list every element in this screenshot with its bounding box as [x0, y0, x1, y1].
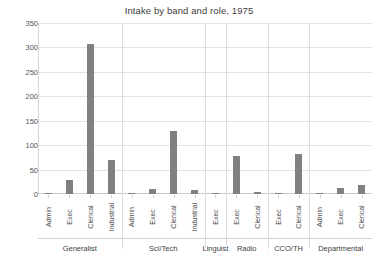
- x-tick-mark: [111, 195, 112, 198]
- x-tick-mark: [69, 195, 70, 198]
- plot-area: [38, 23, 372, 194]
- role-label-slot: Industrial: [184, 195, 205, 239]
- bar-slot[interactable]: [351, 23, 372, 194]
- band-label: Linguist: [205, 239, 226, 257]
- role-label-group: ExecClerical: [268, 195, 310, 239]
- bar-group: [38, 23, 122, 194]
- y-tick-label: 300: [4, 43, 38, 52]
- bar[interactable]: [128, 193, 135, 194]
- role-label-slot: Exec: [205, 195, 226, 239]
- bar[interactable]: [191, 190, 198, 194]
- bar[interactable]: [337, 188, 344, 194]
- band-label: Sci/Tech: [122, 239, 206, 257]
- y-tick-label: 200: [4, 92, 38, 101]
- chart-title: Intake by band and role, 1975: [0, 5, 378, 16]
- bar[interactable]: [149, 189, 156, 194]
- x-tick-mark: [320, 195, 321, 198]
- y-tick-label: 50: [4, 165, 38, 174]
- bar-group: [122, 23, 206, 194]
- role-label: Admin: [44, 207, 51, 227]
- role-label-slot: Exec: [142, 195, 163, 239]
- bar-slot[interactable]: [80, 23, 101, 194]
- x-tick-mark: [257, 195, 258, 198]
- bar-slot[interactable]: [247, 23, 268, 194]
- bar-slot[interactable]: [101, 23, 122, 194]
- band-axis-labels: GeneralistSci/TechLinguistRadioCCO/THDep…: [38, 239, 372, 257]
- bar-series: [38, 23, 372, 194]
- band-label: Radio: [226, 239, 268, 257]
- bar-slot[interactable]: [184, 23, 205, 194]
- role-label-group: AdminExecClericalIndustrial: [38, 195, 122, 239]
- x-tick-mark: [341, 195, 342, 198]
- y-tick-label: 350: [4, 19, 38, 28]
- x-tick-mark: [236, 195, 237, 198]
- bar[interactable]: [275, 193, 282, 194]
- bar-slot[interactable]: [330, 23, 351, 194]
- role-label-slot: Exec: [226, 195, 247, 239]
- role-label-slot: Exec: [59, 195, 80, 239]
- x-tick-mark: [362, 195, 363, 198]
- bar-slot[interactable]: [163, 23, 184, 194]
- y-tick-label: 100: [4, 141, 38, 150]
- x-tick-mark: [215, 195, 216, 198]
- bar-slot[interactable]: [289, 23, 310, 194]
- x-tick-mark: [174, 195, 175, 198]
- role-label-slot: Admin: [122, 195, 143, 239]
- role-label-group: ExecClerical: [226, 195, 268, 239]
- bar-group: [226, 23, 268, 194]
- bar[interactable]: [233, 156, 240, 194]
- bar-slot[interactable]: [226, 23, 247, 194]
- band-label: Generalist: [38, 239, 122, 257]
- bar-group: [268, 23, 310, 194]
- role-label-slot: Clerical: [247, 195, 268, 239]
- bar-slot[interactable]: [142, 23, 163, 194]
- bar-group: [309, 23, 372, 194]
- bar[interactable]: [87, 44, 94, 194]
- bar-slot[interactable]: [59, 23, 80, 194]
- role-label-slot: Admin: [309, 195, 330, 239]
- role-label-slot: Clerical: [80, 195, 101, 239]
- y-tick-label: 0: [4, 190, 38, 199]
- bar[interactable]: [316, 193, 323, 194]
- role-label-group: AdminExecClericalIndustrial: [122, 195, 206, 239]
- role-label: Industrial: [191, 203, 198, 231]
- role-label-slot: Clerical: [351, 195, 372, 239]
- bar-group: [205, 23, 226, 194]
- bar[interactable]: [45, 193, 52, 194]
- bar[interactable]: [212, 193, 219, 194]
- bar[interactable]: [170, 131, 177, 195]
- role-label: Exec: [337, 209, 344, 225]
- x-tick-mark: [48, 195, 49, 198]
- role-label-slot: Industrial: [101, 195, 122, 239]
- bar-slot[interactable]: [38, 23, 59, 194]
- role-axis-labels: AdminExecClericalIndustrialAdminExecCler…: [38, 195, 372, 239]
- band-label: CCO/TH: [268, 239, 310, 257]
- role-label: Clerical: [86, 205, 93, 228]
- role-label: Exec: [232, 209, 239, 225]
- bar[interactable]: [66, 180, 73, 194]
- role-label: Exec: [149, 209, 156, 225]
- role-label: Clerical: [358, 205, 365, 228]
- bar-slot[interactable]: [268, 23, 289, 194]
- role-label-group: Exec: [205, 195, 226, 239]
- role-label-slot: Exec: [330, 195, 351, 239]
- x-tick-mark: [90, 195, 91, 198]
- bar[interactable]: [108, 160, 115, 194]
- x-tick-mark: [153, 195, 154, 198]
- bar-slot[interactable]: [309, 23, 330, 194]
- x-tick-mark: [278, 195, 279, 198]
- role-label: Clerical: [170, 205, 177, 228]
- role-label: Admin: [316, 207, 323, 227]
- role-label: Exec: [65, 209, 72, 225]
- bar-slot[interactable]: [122, 23, 143, 194]
- role-label-slot: Clerical: [289, 195, 310, 239]
- role-label-slot: Clerical: [163, 195, 184, 239]
- role-label-slot: Admin: [38, 195, 59, 239]
- bar[interactable]: [358, 185, 365, 194]
- x-tick-mark: [299, 195, 300, 198]
- role-label: Admin: [128, 207, 135, 227]
- x-tick-mark: [132, 195, 133, 198]
- bar[interactable]: [254, 192, 261, 194]
- bar[interactable]: [295, 154, 302, 194]
- bar-slot[interactable]: [205, 23, 226, 194]
